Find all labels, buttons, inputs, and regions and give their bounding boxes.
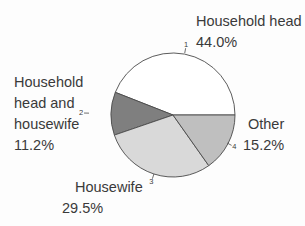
slice-3-percent-label: 29.5% — [62, 198, 103, 219]
slice-4-percent-label: 15.2% — [243, 135, 284, 156]
slice-2-name-line-2: head and — [14, 93, 83, 114]
slice-1-name-label: Household head — [196, 11, 302, 32]
slice-1-percent-label: 44.0% — [196, 32, 302, 53]
pie-chart-figure: 1234 Household head 44.0% Household head… — [0, 0, 305, 226]
slice-2-name-line-1: Household — [14, 72, 83, 93]
slice-3-name-label: Housewife — [75, 177, 143, 198]
slice-4-index-number: 4 — [232, 142, 236, 151]
slice-2-name-line-3: housewife — [14, 114, 83, 135]
slice-1-index-number: 1 — [184, 40, 188, 49]
slice-2-label-block: Household head and housewife 11.2% — [14, 72, 83, 156]
slice-2-percent-label: 11.2% — [14, 135, 83, 156]
slice-4-name-label: Other — [248, 114, 284, 135]
slice-3-index-number: 3 — [149, 177, 153, 186]
slice-1-label-block: Household head 44.0% — [196, 11, 302, 53]
